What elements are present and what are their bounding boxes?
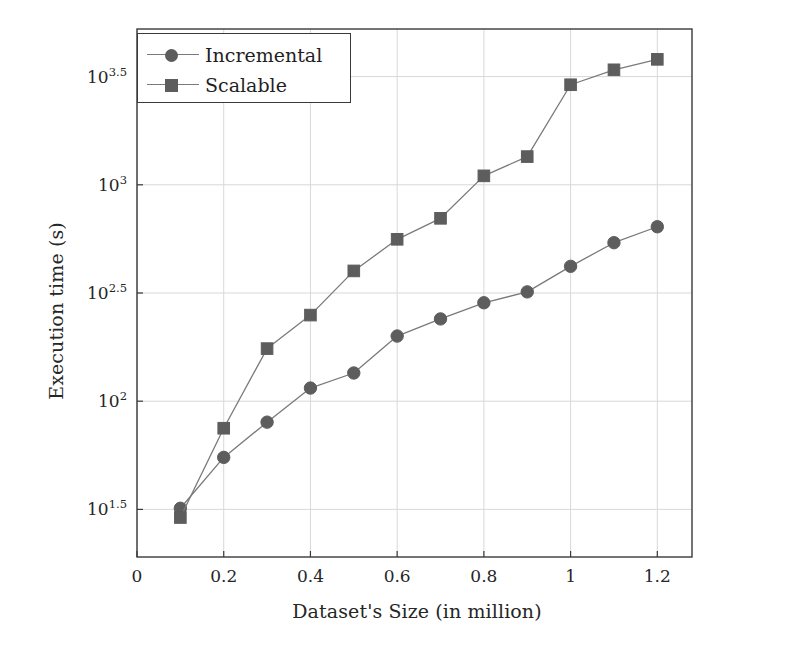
legend[interactable]: Incremental Scalable	[137, 33, 351, 103]
legend-sample-square	[147, 75, 199, 95]
grid-lines	[137, 29, 692, 557]
legend-label-incremental: Incremental	[205, 44, 322, 66]
legend-item-incremental[interactable]: Incremental	[138, 40, 350, 70]
legend-label-scalable: Scalable	[205, 74, 287, 96]
circle-marker-icon	[165, 49, 178, 62]
data-series	[174, 54, 663, 524]
chart-figure: Execution time (s) Dataset's Size (in mi…	[0, 0, 797, 660]
legend-item-scalable[interactable]: Scalable	[138, 70, 350, 100]
legend-sample-circle	[147, 45, 199, 65]
plot-area	[0, 0, 797, 660]
square-marker-icon	[165, 79, 178, 92]
